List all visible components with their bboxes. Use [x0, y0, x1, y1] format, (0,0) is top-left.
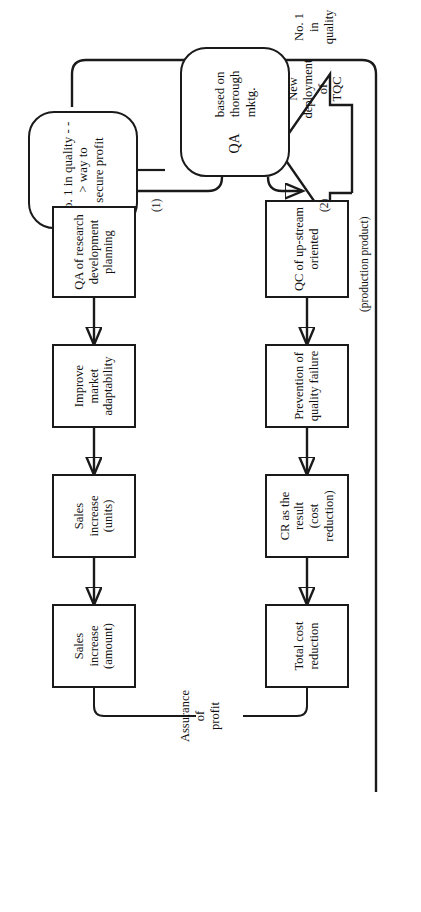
assurance-of-profit-label: Assurance of profit — [178, 680, 222, 752]
node-prevention-of-quality-failure: Prevention of quality failure — [265, 344, 349, 428]
node-label: CR as the result (cost reduction) — [278, 479, 337, 553]
production-product-caption: (production product) — [358, 217, 371, 313]
wire-total-cost-to-assurance — [243, 688, 307, 716]
node-label: QC of up-stream oriented — [292, 207, 322, 291]
node-improve-market-adaptability: Improve market adaptability — [52, 344, 136, 428]
house-arrow-caption: No. 1 in quality — [292, 0, 336, 57]
wire-hub-to-branch2 — [268, 177, 302, 191]
node-label: Total cost reduction — [292, 622, 322, 671]
hub-qa-box: QA based on thorough mktg. — [180, 47, 290, 177]
node-sales-increase-amount: Sales increase (amount) — [52, 604, 136, 688]
node-total-cost-reduction: Total cost reduction — [265, 604, 349, 688]
node-label: Improve market adaptability — [72, 357, 116, 416]
hub-subtitle: based on thorough mktg. — [212, 70, 259, 117]
hub-title: QA — [227, 133, 244, 153]
node-qa-research-development-planning: QA of research development planning — [52, 206, 136, 298]
branch-marker-2: (2) — [318, 199, 331, 212]
node-sales-increase-units: Sales increase (units) — [52, 474, 136, 558]
node-label: Sales increase (units) — [72, 496, 116, 537]
tqc-flow-diagram: No. 1 in quality - - > way to secure pro… — [0, 0, 421, 912]
node-label: QA of research development planning — [72, 214, 116, 290]
node-qc-of-upstream-oriented: QC of up-stream oriented — [265, 200, 349, 298]
figure-stage: No. 1 in quality - - > way to secure pro… — [0, 0, 421, 912]
node-label: Sales increase (amount) — [72, 623, 116, 669]
node-cr-as-the-result: CR as the result (cost reduction) — [265, 474, 349, 558]
branch-marker-1: (1) — [150, 199, 163, 212]
node-label: Prevention of quality failure — [292, 351, 322, 421]
